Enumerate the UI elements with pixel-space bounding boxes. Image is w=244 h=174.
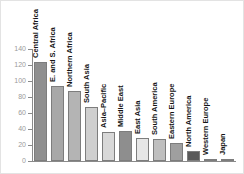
bar-category-label: North America — [185, 96, 193, 147]
y-axis-tick-label: 60 — [4, 109, 26, 116]
bar-item[interactable] — [85, 107, 99, 161]
bar-item[interactable] — [119, 131, 133, 161]
bar-item[interactable] — [34, 62, 48, 161]
y-axis-tick — [28, 145, 33, 146]
x-axis-line — [32, 161, 236, 162]
bar[interactable] — [170, 143, 184, 161]
bar-category-label: South America — [151, 83, 159, 136]
bar-item[interactable] — [170, 143, 184, 161]
y-axis-tick — [28, 65, 33, 66]
bar[interactable] — [119, 131, 133, 161]
bar-category-label: Japan — [219, 134, 227, 156]
bar-category-label: Western Europe — [202, 97, 210, 154]
y-axis-tick-label: 140 — [4, 45, 26, 52]
bar[interactable] — [102, 132, 116, 161]
bar-item[interactable] — [221, 159, 235, 161]
bar-item[interactable] — [187, 151, 201, 161]
y-axis-tick — [28, 113, 33, 114]
bar-category-label: Eastern Europe — [168, 83, 176, 138]
bar-item[interactable] — [204, 159, 218, 161]
y-axis-tick-label: 40 — [4, 125, 26, 132]
bar-category-label: East Asia — [134, 100, 142, 134]
y-axis-tick-label: 0 — [4, 157, 26, 164]
bar-item[interactable] — [136, 138, 150, 161]
bar[interactable] — [136, 138, 150, 161]
bar-item[interactable] — [51, 86, 65, 161]
y-axis-tick-label: 20 — [4, 141, 26, 148]
bar[interactable] — [221, 159, 235, 161]
bar-category-label: E. and S. Africa — [49, 27, 57, 82]
bar-category-label: Northern Africa — [66, 32, 74, 87]
y-axis-tick-label: 120 — [4, 61, 26, 68]
bar-item[interactable] — [102, 132, 116, 161]
bar-category-label: Central Africa — [32, 9, 40, 58]
y-axis-tick — [28, 161, 33, 162]
y-axis-tick — [28, 129, 33, 130]
y-axis-tick-label: 80 — [4, 93, 26, 100]
bar[interactable] — [51, 86, 65, 161]
y-axis-tick — [28, 97, 33, 98]
bar[interactable] — [204, 159, 218, 161]
bar-item[interactable] — [68, 91, 82, 161]
y-axis-tick-label: 100 — [4, 77, 26, 84]
bar[interactable] — [68, 91, 82, 161]
bar[interactable] — [153, 139, 167, 161]
bar-category-label: Middle East — [117, 85, 125, 127]
bar-category-label: Asia–Pacific — [100, 84, 108, 128]
bar-category-label: South Asia — [83, 64, 91, 103]
bar[interactable] — [34, 62, 48, 161]
bar[interactable] — [85, 107, 99, 161]
chart-frame: 020406080100120140 Central AfricaE. and … — [0, 0, 244, 174]
bar-item[interactable] — [153, 139, 167, 161]
bar[interactable] — [187, 151, 201, 161]
y-axis-tick — [28, 81, 33, 82]
